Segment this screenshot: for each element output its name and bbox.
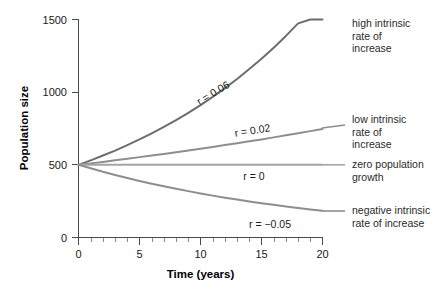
y-axis-ticks <box>72 20 79 238</box>
annotation-r-006: r = 0.06 <box>194 78 231 107</box>
x-tick-label-20: 20 <box>316 248 328 260</box>
legend-label-negative: negative intrinsic rate of increase <box>352 204 430 229</box>
x-tick-label-15: 15 <box>255 248 267 260</box>
y-tick-label-1500: 1500 <box>43 14 67 26</box>
population-growth-chart: 1500 1000 500 0 0 5 10 15 20 Time (years… <box>0 0 442 295</box>
legend-label-low: low intrinsic rate of increase <box>352 113 406 151</box>
legend-label-zero: zero population growth <box>352 158 424 183</box>
axes-group <box>79 19 323 238</box>
data-curves-group <box>79 20 323 211</box>
y-tick-label-1000: 1000 <box>43 86 67 98</box>
annotation-r-002: r = 0.02 <box>234 121 271 138</box>
legend-leader-lines <box>322 125 345 211</box>
x-tick-label-5: 5 <box>136 248 142 260</box>
x-tick-label-0: 0 <box>75 248 81 260</box>
curve-r-0neg02 <box>79 129 323 165</box>
annotation-r-neg-005: r = −0.05 <box>249 218 291 230</box>
y-tick-label-500: 500 <box>49 159 67 171</box>
leader-line-low <box>322 125 345 128</box>
x-tick-label-10: 10 <box>194 248 206 260</box>
y-tick-label-0: 0 <box>61 232 67 244</box>
legend-label-high: high intrinsic rate of increase <box>352 17 410 55</box>
y-axis-tick-labels: 1500 1000 500 0 <box>43 14 67 244</box>
y-axis-title: Population size <box>18 86 30 170</box>
x-axis-title: Time (years) <box>167 268 235 280</box>
x-axis-tick-labels: 0 5 10 15 20 <box>75 248 328 260</box>
annotation-r-0: r = 0 <box>243 170 264 182</box>
curve-annotations: r = 0.06 r = 0.02 r = 0 r = −0.05 <box>194 78 291 230</box>
curve-r-neg0-05 <box>79 165 323 211</box>
